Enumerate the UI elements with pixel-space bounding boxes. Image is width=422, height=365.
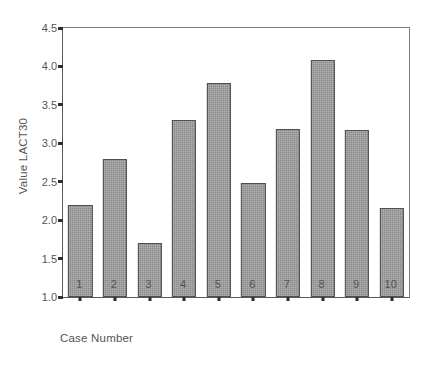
y-axis-tick-label: 1.0	[42, 291, 57, 303]
y-axis-tick	[58, 219, 63, 222]
y-axis-tick-label: 3.5	[42, 99, 57, 111]
bar	[172, 120, 196, 297]
bar	[276, 129, 300, 297]
x-axis-tick	[148, 297, 151, 301]
y-axis-tick-label: 3.0	[42, 137, 57, 149]
y-axis-tick	[58, 27, 63, 30]
plot-area: 4.54.03.53.02.52.01.51.0	[62, 27, 410, 298]
y-axis-tick	[58, 180, 63, 183]
y-axis-tick-label: 4.5	[42, 22, 57, 34]
y-axis-tick	[58, 103, 63, 106]
y-axis-tick-label: 2.0	[42, 214, 57, 226]
y-axis-tick	[58, 65, 63, 68]
y-axis-title: Value LACT30	[17, 86, 29, 226]
x-axis-tick-label: 1	[76, 278, 82, 290]
x-axis-tick	[390, 297, 393, 301]
bar	[207, 83, 231, 297]
x-axis-tick-label: 7	[284, 278, 290, 290]
x-axis-tick-label: 2	[111, 278, 117, 290]
x-axis-tick-label: 8	[318, 278, 324, 290]
x-axis-tick	[113, 297, 116, 301]
bar	[345, 130, 369, 297]
bar-chart-figure: Value LACT30 4.54.03.53.02.52.01.51.0 Ca…	[0, 0, 422, 365]
x-axis-tick-label: 3	[145, 278, 151, 290]
x-axis-tick	[252, 297, 255, 301]
bar	[103, 159, 127, 297]
x-axis-tick	[356, 297, 359, 301]
y-axis-tick-label: 1.5	[42, 253, 57, 265]
y-axis-tick-label: 4.0	[42, 60, 57, 72]
y-axis-tick	[58, 142, 63, 145]
x-axis-tick	[286, 297, 289, 301]
x-axis-tick-label: 5	[215, 278, 221, 290]
x-axis-tick-label: 4	[180, 278, 186, 290]
x-axis-tick	[183, 297, 186, 301]
x-axis-title: Case Number	[60, 332, 133, 344]
y-axis-tick	[58, 296, 63, 299]
x-axis-tick	[321, 297, 324, 301]
x-axis-tick-label: 9	[353, 278, 359, 290]
x-axis-tick	[217, 297, 220, 301]
x-axis-tick	[79, 297, 82, 301]
x-axis-tick-label: 6	[249, 278, 255, 290]
x-axis-tick-label: 10	[385, 278, 397, 290]
y-axis-tick-label: 2.5	[42, 176, 57, 188]
bar	[310, 60, 334, 297]
y-axis-tick	[58, 257, 63, 260]
